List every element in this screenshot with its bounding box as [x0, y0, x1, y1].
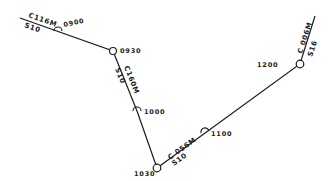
time-label-0930: 0930 [120, 47, 141, 55]
track-line [20, 16, 315, 168]
leg-4-speed: S16 [306, 39, 319, 57]
time-marker-0930 [110, 48, 117, 55]
leg-1-speed: S10 [23, 21, 41, 34]
time-label-0900: 0900 [63, 17, 85, 29]
time-label-1000: 1000 [144, 108, 165, 116]
time-label-1100: 1100 [211, 130, 232, 138]
track-diagram: 0900 0930 1000 1030 1100 1200 C116M S10 … [0, 0, 335, 181]
time-marker-1200 [296, 60, 304, 68]
time-label-1030: 1030 [134, 170, 155, 178]
time-label-1200: 1200 [257, 61, 278, 69]
